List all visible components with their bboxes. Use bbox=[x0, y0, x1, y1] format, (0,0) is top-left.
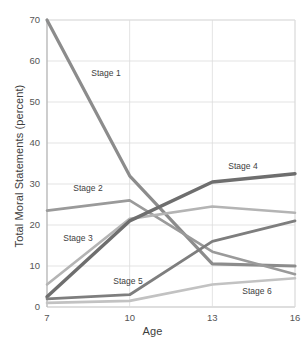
y-axis-title: Total Moral Statements (percent) bbox=[13, 51, 25, 281]
y-tick-label: 60 bbox=[29, 55, 40, 66]
x-tick-label: 13 bbox=[207, 312, 218, 323]
y-tick-label: 20 bbox=[29, 219, 40, 230]
y-tick-label: 30 bbox=[29, 178, 40, 189]
y-tick-label: 40 bbox=[29, 137, 40, 148]
x-tick-label: 16 bbox=[290, 312, 301, 323]
x-tick-label: 7 bbox=[44, 312, 49, 323]
y-tick-labels: 010203040506070 bbox=[29, 14, 40, 312]
series-label: Stage 4 bbox=[228, 161, 258, 171]
series-label: Stage 3 bbox=[63, 233, 93, 243]
y-tick-label: 50 bbox=[29, 96, 40, 107]
line-chart: 010203040506070 7101316 Stage 1Stage 2St… bbox=[0, 0, 305, 343]
y-tick-label: 70 bbox=[29, 14, 40, 25]
series-lines bbox=[47, 20, 295, 303]
x-tick-labels: 7101316 bbox=[44, 312, 300, 323]
series-label: Stage 2 bbox=[73, 183, 103, 193]
x-axis-title: Age bbox=[0, 325, 305, 337]
plot-area: 010203040506070 7101316 Stage 1Stage 2St… bbox=[0, 0, 305, 343]
y-tick-label: 10 bbox=[29, 260, 40, 271]
x-tick-label: 10 bbox=[124, 312, 135, 323]
series-label: Stage 1 bbox=[91, 68, 121, 78]
series-label: Stage 6 bbox=[242, 286, 272, 296]
y-tick-label: 0 bbox=[35, 301, 40, 312]
series-label: Stage 5 bbox=[113, 276, 143, 286]
